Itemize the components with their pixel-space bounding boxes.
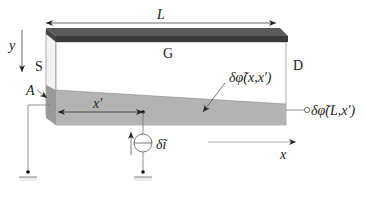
point-a-label: A — [25, 83, 35, 98]
length-dimension: L — [46, 7, 276, 23]
gate-electrode-front — [56, 36, 288, 42]
ground-icon — [19, 177, 37, 181]
output-potential-label: δφ̃(L,x') — [311, 103, 355, 119]
ground-icon — [134, 177, 152, 181]
x-axis: x — [208, 142, 296, 162]
gate-label: G — [163, 46, 173, 61]
y-axis-label: y — [7, 38, 16, 53]
output-terminal: δφ̃(L,x') — [286, 103, 355, 119]
x-axis-label: x — [279, 147, 287, 162]
y-axis: y — [7, 30, 22, 72]
current-source-label: δĩ — [156, 137, 169, 152]
x-prime-label: x' — [92, 96, 103, 111]
length-label: L — [156, 7, 165, 22]
transistor-channel-diagram: L y S G D A x' δφ̃(x,x') — [0, 0, 366, 197]
potential-label: δφ̃(x,x') — [229, 70, 272, 86]
gate-electrode-top — [46, 28, 288, 36]
point-a: A — [25, 83, 47, 98]
source-label: S — [35, 59, 43, 74]
source-ground — [19, 105, 50, 181]
drain-label: D — [293, 58, 303, 73]
